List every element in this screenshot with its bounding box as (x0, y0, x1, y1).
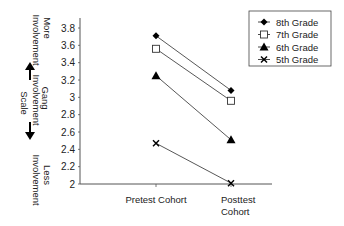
data-point (228, 97, 235, 104)
legend-marker (261, 31, 268, 38)
y-label-less: Less (42, 165, 53, 185)
y-ticks: 22.22.42.62.833.23.43.63.8 (61, 23, 80, 190)
data-point (152, 71, 161, 79)
y-label-scale: Scale (19, 91, 30, 115)
series-line (156, 49, 231, 101)
y-tick-label: 2.4 (61, 144, 75, 155)
legend-label: 6th Grade (276, 42, 318, 53)
x-tick-label: Cohort (221, 206, 250, 217)
y-tick-label: 2.2 (61, 161, 75, 172)
y-axis-label: MoreGangLessInvolvementInvolvementInvolv… (19, 14, 53, 206)
y-tick-label: 3 (69, 92, 75, 103)
y-tick-label: 2.6 (61, 127, 75, 138)
y-label-involvement-mid: Involvement (31, 74, 42, 126)
y-tick-label: 2.8 (61, 109, 75, 120)
data-point (153, 45, 160, 52)
x-tick-label: Pretest Cohort (125, 194, 187, 205)
series-line (156, 143, 231, 183)
y-tick-label: 3.8 (61, 23, 75, 34)
series-7th-grade (153, 45, 235, 104)
legend-label: 8th Grade (276, 17, 318, 28)
x-tick-label: Posttest (221, 194, 256, 205)
y-label-involvement-bottom: Involvement (31, 154, 42, 206)
legend-label: 7th Grade (276, 29, 318, 40)
y-label-involvement-top: Involvement (31, 14, 42, 66)
arrow-down-head-icon (25, 132, 35, 140)
y-label-more: More (42, 17, 53, 39)
series-line (156, 76, 231, 140)
chart: MoreGangLessInvolvementInvolvementInvolv… (0, 0, 344, 226)
series-line (156, 36, 231, 91)
legend-label: 5th Grade (276, 54, 318, 65)
series-8th-grade (153, 32, 235, 94)
data-point (227, 135, 236, 143)
legend-item: 7th Grade (258, 29, 318, 40)
series-6th-grade (152, 71, 236, 143)
data-point (153, 140, 159, 146)
y-tick-label: 3.4 (61, 57, 75, 68)
series-group (152, 32, 236, 186)
series-5th-grade (153, 140, 234, 186)
y-tick-label: 3.6 (61, 40, 75, 51)
y-tick-label: 3.2 (61, 75, 75, 86)
y-tick-label: 2 (69, 179, 75, 190)
legend: 8th Grade7th Grade6th Grade5th Grade (249, 11, 331, 66)
data-point (153, 32, 160, 39)
x-ticks: Pretest CohortPosttestCohort (125, 184, 255, 217)
data-point (228, 87, 235, 94)
